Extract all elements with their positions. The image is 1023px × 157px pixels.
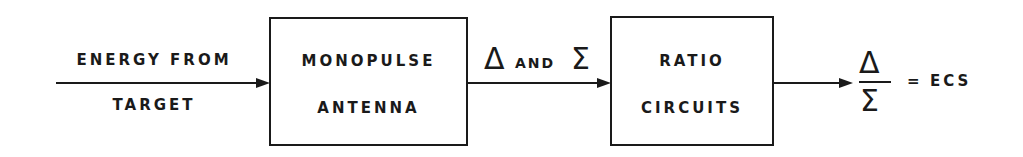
input-arrow-line: [56, 82, 256, 84]
input-arrowhead-icon: [256, 78, 270, 88]
block-diagram: ENERGY FROM TARGET MONOPULSE ANTENNA Δ A…: [0, 0, 1023, 157]
fraction-denominator-sigma: Σ: [860, 86, 879, 116]
block-label-bottom: ANTENNA: [271, 99, 466, 117]
ecs-label: ECS: [930, 72, 971, 90]
block-label-top: RATIO: [612, 52, 772, 70]
fraction-numerator-delta: Δ: [859, 48, 880, 78]
input-label-bottom: TARGET: [64, 96, 244, 114]
monopulse-antenna-block: MONOPULSE ANTENNA: [269, 17, 468, 146]
connector-arrowhead-icon: [597, 78, 611, 88]
connector-arrow-line: [468, 82, 598, 84]
delta-symbol: Δ: [484, 44, 505, 74]
sigma-symbol: Σ: [571, 44, 590, 74]
block-label-top: MONOPULSE: [271, 52, 466, 70]
ratio-fraction: Δ Σ: [857, 46, 895, 118]
and-label: AND: [515, 55, 555, 71]
input-label-top: ENERGY FROM: [64, 51, 244, 69]
ratio-circuits-block: RATIO CIRCUITS: [610, 16, 774, 146]
block-label-bottom: CIRCUITS: [612, 99, 772, 117]
output-arrowhead-icon: [839, 78, 853, 88]
equals-sign: =: [907, 72, 920, 90]
output-arrow-line: [774, 82, 840, 84]
